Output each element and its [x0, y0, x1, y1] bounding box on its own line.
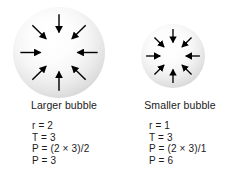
formula-radius: r = 2	[32, 120, 119, 132]
arrow-northeast	[182, 37, 192, 47]
arrow-southeast	[182, 65, 192, 75]
larger-bubble-caption: Larger bubble	[7, 99, 119, 112]
bubble-pressure-diagram: Larger bubble r = 2 T = 3 P = (2 × 3)/2 …	[0, 0, 233, 182]
arrow-northwest	[32, 25, 46, 39]
larger-bubble-formula-list: r = 2 T = 3 P = (2 × 3)/2 P = 3	[7, 120, 119, 166]
formula-pressure-expression: P = (2 × 3)/1	[149, 143, 230, 155]
arrow-southwest	[154, 65, 164, 75]
formula-pressure-result: P = 3	[32, 155, 119, 167]
arrow-southeast	[72, 66, 86, 80]
smaller-bubble-arrow-group	[141, 24, 205, 88]
arrow-northeast	[72, 25, 86, 39]
formula-tension: T = 3	[32, 132, 119, 144]
smaller-bubble-formula-list: r = 1 T = 3 P = (2 × 3)/1 P = 6	[130, 120, 230, 166]
formula-radius: r = 1	[149, 120, 230, 132]
larger-bubble-text-column: Larger bubble r = 2 T = 3 P = (2 × 3)/2 …	[7, 99, 119, 166]
formula-tension: T = 3	[149, 132, 230, 144]
larger-bubble-illustration	[13, 7, 105, 98]
arrow-northwest	[154, 37, 164, 47]
smaller-bubble-text-column: Smaller bubble r = 1 T = 3 P = (2 × 3)/1…	[130, 99, 230, 166]
smaller-bubble-illustration	[141, 24, 205, 88]
smaller-bubble-caption: Smaller bubble	[130, 99, 230, 112]
formula-pressure-expression: P = (2 × 3)/2	[32, 143, 119, 155]
larger-bubble-arrow-group	[13, 7, 105, 98]
arrow-southwest	[32, 66, 46, 80]
formula-pressure-result: P = 6	[149, 155, 230, 167]
